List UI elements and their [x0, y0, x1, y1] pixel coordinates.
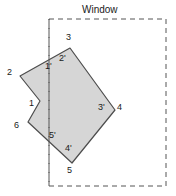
vertex-label-6: 6	[14, 121, 19, 130]
vertex-label-2: 2	[7, 68, 12, 77]
vertex-label-4p: 4'	[65, 144, 72, 153]
vertex-label-3: 3	[66, 33, 71, 42]
vertex-label-4: 4	[117, 103, 122, 112]
vertex-label-3p: 3'	[98, 103, 105, 112]
vertex-label-1: 1	[29, 99, 34, 108]
vertex-label-5p: 5'	[49, 131, 56, 140]
diagram-canvas	[0, 0, 176, 196]
vertex-label-5: 5	[67, 166, 72, 175]
window-title-label: Window	[82, 5, 118, 15]
vertex-label-2p: 2'	[59, 54, 66, 63]
vertex-label-1p: 1'	[45, 62, 52, 71]
